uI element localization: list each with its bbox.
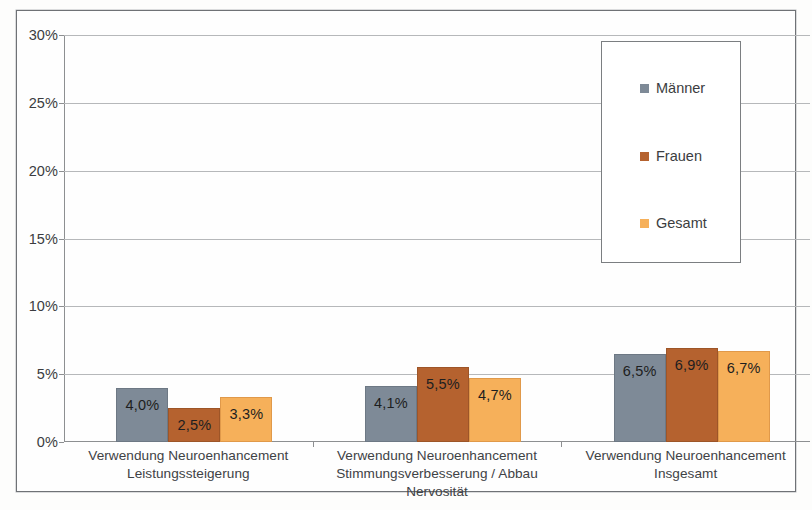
legend-swatch-icon — [640, 84, 649, 93]
bar-value-label: 5,5% — [418, 376, 468, 392]
legend-item: Gesamt — [640, 215, 707, 231]
bar: 5,5% — [417, 367, 469, 442]
bar: 6,9% — [666, 348, 718, 442]
chart-frame: 0%5%10%15%20%25%30% 4,0%2,5%3,3%4,1%5,5%… — [16, 10, 796, 492]
bar: 3,3% — [220, 397, 272, 442]
legend-swatch-icon — [640, 219, 649, 228]
bar: 4,0% — [116, 388, 168, 442]
legend-item: Frauen — [640, 148, 702, 164]
y-axis-tick-label: 25% — [29, 95, 58, 111]
legend-item-label: Frauen — [656, 148, 702, 164]
y-axis-tick-label: 0% — [37, 434, 58, 450]
legend-item-label: Gesamt — [656, 215, 707, 231]
x-axis-category-label-line: Verwendung Neuroenhancement — [313, 447, 562, 465]
x-axis-category-label: Verwendung NeuroenhancementInsgesamt — [561, 447, 810, 483]
bar: 6,5% — [614, 354, 666, 442]
x-axis-category-label-line: Stimmungsverbesserung / Abbau — [313, 465, 562, 483]
x-axis-category-label-line: Insgesamt — [561, 465, 810, 483]
legend-item-label: Männer — [656, 80, 705, 96]
y-axis-tick — [59, 306, 64, 307]
bar: 6,7% — [718, 351, 770, 442]
bar: 2,5% — [168, 408, 220, 442]
x-axis-category-labels: Verwendung NeuroenhancementLeistungsstei… — [64, 447, 810, 503]
gridline — [64, 35, 810, 36]
y-axis-tick-label: 10% — [29, 298, 58, 314]
bar: 4,1% — [365, 386, 417, 442]
y-axis-tick — [59, 239, 64, 240]
y-axis-tick — [59, 442, 64, 443]
y-axis-tick-label: 30% — [29, 27, 58, 43]
legend: MännerFrauenGesamt — [601, 41, 741, 263]
x-axis-category-label: Verwendung NeuroenhancementStimmungsverb… — [313, 447, 562, 501]
y-axis-tick — [59, 171, 64, 172]
x-axis-category-label-line: Verwendung Neuroenhancement — [64, 447, 313, 465]
x-axis-category-label-line: Leistungssteigerung — [64, 465, 313, 483]
y-axis-tick-label: 15% — [29, 231, 58, 247]
x-axis-category-label: Verwendung NeuroenhancementLeistungsstei… — [64, 447, 313, 483]
y-axis-labels: 0%5%10%15%20%25%30% — [17, 35, 58, 442]
gridline — [64, 306, 810, 307]
y-axis-tick — [59, 103, 64, 104]
y-axis-tick — [59, 374, 64, 375]
bar-value-label: 6,9% — [667, 357, 717, 373]
bar-value-label: 3,3% — [221, 406, 271, 422]
bar: 4,7% — [469, 378, 521, 442]
bar-value-label: 6,5% — [615, 363, 665, 379]
x-axis-category-label-line: Verwendung Neuroenhancement — [561, 447, 810, 465]
legend-swatch-icon — [640, 152, 649, 161]
y-axis-tick-label: 5% — [37, 366, 58, 382]
chart-screenshot: 0%5%10%15%20%25%30% 4,0%2,5%3,3%4,1%5,5%… — [0, 0, 812, 510]
bar-value-label: 4,7% — [470, 387, 520, 403]
bar-value-label: 6,7% — [719, 360, 769, 376]
bar-value-label: 4,1% — [366, 395, 416, 411]
legend-item: Männer — [640, 80, 705, 96]
bar-value-label: 2,5% — [169, 417, 219, 433]
bar-value-label: 4,0% — [117, 397, 167, 413]
x-axis-category-label-line: Nervosität — [313, 483, 562, 501]
y-axis-tick — [59, 35, 64, 36]
y-axis-tick-label: 20% — [29, 163, 58, 179]
